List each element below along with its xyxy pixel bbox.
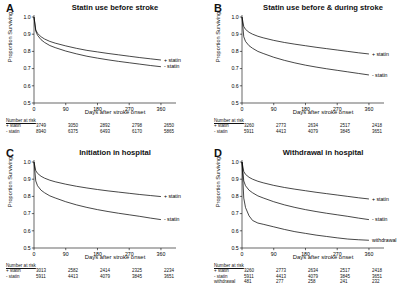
panel-c: CInitiation in hospital1.00.90.80.70.60.… <box>0 145 208 290</box>
y-axis-label: Proportion Surviving <box>215 150 221 214</box>
y-tick-label: 0.9 <box>23 31 30 37</box>
x-axis-label: Days after stroke onset <box>26 109 204 115</box>
y-axis-label: Proportion Surviving <box>7 5 13 69</box>
y-tick-label: 0.8 <box>23 193 30 199</box>
y-tick-label: 0.6 <box>231 83 238 89</box>
y-tick-label: 1.0 <box>23 14 30 20</box>
risk-value: 4413 <box>68 274 100 279</box>
number-at-risk-table: Number at risk+ statin374930502892279826… <box>6 118 206 134</box>
curve-label: + statin <box>164 193 181 199</box>
risk-value: 3651 <box>372 129 404 134</box>
y-tick-label: 0.8 <box>231 193 238 199</box>
number-at-risk-table: Number at risk+ statin301325822414232522… <box>6 263 206 279</box>
panel-b: BStatin use before & during stroke1.00.9… <box>208 0 416 145</box>
risk-value: 5911 <box>244 129 276 134</box>
table-row: - statin59114413407938453651 <box>6 274 206 279</box>
risk-value: 3845 <box>132 274 164 279</box>
table-row: withdrawal481277258241232 <box>214 279 414 284</box>
risk-value: 241 <box>340 279 372 284</box>
survival-curve <box>242 162 369 199</box>
risk-value: 4079 <box>100 274 132 279</box>
y-tick-label: 0.6 <box>23 83 30 89</box>
y-tick-label: 0.9 <box>231 31 238 37</box>
survival-curve <box>242 162 369 240</box>
table-row: - statin59114413407938453651 <box>214 129 414 134</box>
y-axis-label: Proportion Surviving <box>215 5 221 69</box>
y-tick-label: 0.8 <box>231 48 238 54</box>
survival-curve <box>34 17 161 67</box>
y-tick-label: 0.7 <box>23 65 30 71</box>
y-tick-label: 0.7 <box>23 210 30 216</box>
table-row: - statin89406375649361705865 <box>6 129 206 134</box>
x-axis-label: Days after stroke onset <box>26 254 204 260</box>
curve-label: - statin <box>372 72 388 78</box>
risk-group-name: withdrawal <box>214 279 244 284</box>
risk-value: 481 <box>244 279 276 284</box>
y-tick-label: 0.9 <box>23 176 30 182</box>
x-axis-label: Days after stroke onset <box>234 254 412 260</box>
curve-label: - statin <box>164 216 180 222</box>
y-tick-label: 0.6 <box>231 228 238 234</box>
risk-group-name: - statin <box>6 129 36 134</box>
number-at-risk-table: Number at risk+ statin326027732634251724… <box>214 118 414 134</box>
risk-value: 4079 <box>308 129 340 134</box>
curve-label: + statin <box>372 196 389 202</box>
y-tick-label: 0.8 <box>23 48 30 54</box>
y-tick-label: 1.0 <box>231 14 238 20</box>
survival-curve <box>34 17 161 60</box>
survival-curve <box>34 162 161 197</box>
survival-curve <box>242 17 369 54</box>
risk-value: 3651 <box>164 274 196 279</box>
risk-group-name: - statin <box>6 274 36 279</box>
number-at-risk-table: Number at risk+ statin326027732634251724… <box>214 263 414 285</box>
risk-value: 5865 <box>164 129 196 134</box>
curve-label: - statin <box>164 63 180 69</box>
risk-value: 6375 <box>68 129 100 134</box>
panel-a: AStatin use before stroke1.00.90.80.70.6… <box>0 0 208 145</box>
curve-label: + statin <box>372 51 389 57</box>
risk-value: 5911 <box>36 274 68 279</box>
panel-d: DWithdrawal in hospital1.00.90.80.70.60.… <box>208 145 416 290</box>
curve-label: - statin <box>372 216 388 222</box>
y-axis-label: Proportion Surviving <box>7 150 13 214</box>
risk-value: 6170 <box>132 129 164 134</box>
y-tick-label: 1.0 <box>23 159 30 165</box>
risk-value: 6493 <box>100 129 132 134</box>
y-tick-label: 0.6 <box>23 228 30 234</box>
risk-value: 3845 <box>340 129 372 134</box>
curve-label: withdrawal <box>372 237 397 243</box>
kaplan-meier-figure: AStatin use before stroke1.00.90.80.70.6… <box>0 0 416 290</box>
risk-group-name: - statin <box>214 129 244 134</box>
risk-value: 258 <box>308 279 340 284</box>
curve-label: + statin <box>164 57 181 63</box>
x-axis-label: Days after stroke onset <box>234 109 412 115</box>
y-tick-label: 0.5 <box>23 245 30 251</box>
y-tick-label: 0.7 <box>231 65 238 71</box>
y-tick-label: 0.5 <box>23 100 30 106</box>
risk-value: 277 <box>276 279 308 284</box>
survival-curve <box>34 162 161 220</box>
y-tick-label: 1.0 <box>231 159 238 165</box>
risk-value: 232 <box>372 279 404 284</box>
y-tick-label: 0.9 <box>231 176 238 182</box>
y-tick-label: 0.7 <box>231 210 238 216</box>
y-tick-label: 0.5 <box>231 100 238 106</box>
risk-value: 4413 <box>276 129 308 134</box>
y-tick-label: 0.5 <box>231 245 238 251</box>
risk-value: 8940 <box>36 129 68 134</box>
